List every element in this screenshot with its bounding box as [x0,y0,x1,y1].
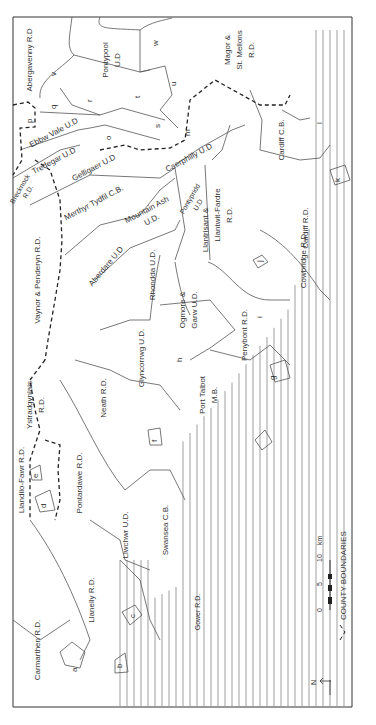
label-ogmore-1: Ogmore & [178,291,187,328]
sea-hatching [120,30,344,706]
label-swansea: Swansea C.B. [161,505,170,556]
letter-p: p [25,118,34,123]
north-label: N [310,680,317,685]
letter-q: q [49,105,58,109]
letter-d: d [39,504,48,508]
label-llantrisant-3: R.D. [225,207,234,223]
scale-tick-0: 0 [316,608,323,612]
label-carmarthen: Carmarthen R.D. [33,620,42,680]
label-ystradgynlais-2: R.D. [37,397,46,413]
label-penybont: Penybont R.D. [240,309,249,361]
letter-o: o [104,135,113,140]
scale-tick-10: 10 [316,554,323,562]
label-neath: Neath R.D. [99,378,108,418]
letter-a: a [70,667,79,672]
label-ystradgynlais-1: Ystradgynlais [25,381,34,429]
label-llwchwr: Llwchwr U.D. [121,511,130,558]
label-cardiff-cb: Cardiff C.B. [277,119,286,160]
label-ogmore-2: Garw U.D. [190,291,199,328]
label-pontardawe: Pontardawe R.D. [75,453,84,514]
label-cowbridge: Cowbridge R.D. [299,232,308,288]
label-ebbw: Ebbw Vale U.D [28,116,80,149]
letter-b: b [115,663,124,668]
letter-g: g [268,376,277,380]
scale-bar-seg [328,574,332,579]
label-gower: Gower R.D. [194,594,201,631]
label-pontypool-1: Pontypool [101,42,110,78]
label-llantrisant-2: Llantwit-Fardre [213,188,222,242]
label-gelligaer: Gelligaer U.D [71,152,118,183]
map-canvas: Abergavenny R.D Pontypool U.D Magor & St… [0,0,376,725]
label-llantrisant-1: Llantrisant & [201,207,210,252]
letter-w: w [151,40,160,47]
label-rhondda: Rhondda U.D. [148,250,157,301]
letter-s: s [153,124,162,128]
legend-label: COUNTY BOUNDARIES [339,531,348,620]
letter-t: t [133,95,142,98]
label-port-talbot-1: Port Talbot [198,375,207,414]
label-abergavenny: Abergavenny R.D [25,28,34,91]
letter-f: f [150,439,159,442]
label-port-talbot-2: M.B. [210,387,219,403]
label-glyncorrwg: Glyncorrwg U.D. [137,329,146,388]
scale-tick-5: 5 [316,582,323,586]
label-magor-2: St. Mellons [235,30,244,70]
label-pontypool-2: U.D [113,53,122,67]
label-caerphilly: Caerphilly U.D [164,142,214,174]
letter-i-2: i [255,316,264,318]
scale-unit: km [316,536,323,546]
letter-e-2: e [31,473,40,478]
label-llanelly: Llanelly R.D. [87,577,96,622]
district-boundaries [13,17,350,673]
letter-c: c [128,614,137,618]
letter-markers: a b c d e e f g h i i j k l m o p q r s … [25,40,342,672]
letter-j: j [255,260,264,263]
letter-l: l [315,122,324,124]
letter-m: m [183,129,192,136]
letter-u: u [169,82,178,86]
letter-v: v [49,72,58,76]
scale-bar-seg [328,597,332,604]
label-magor-1: Magor & [223,34,232,65]
label-tredegar: Tredegar U.D [30,145,77,176]
label-vaynor: Vaynor & Penderyn R.D. [33,236,42,323]
scale-bar-seg [328,585,332,591]
label-aberdare: Aberdare U.D [87,245,125,288]
label-merthyr: Merthyr Tydfil C.B. [63,183,125,222]
letter-h: h [175,358,184,362]
letter-k: k [333,177,342,182]
label-magor-3: R.D. [247,42,256,58]
label-llandilo: Llandilo-Fawr R.D. [17,447,26,513]
letter-r: r [85,99,94,102]
